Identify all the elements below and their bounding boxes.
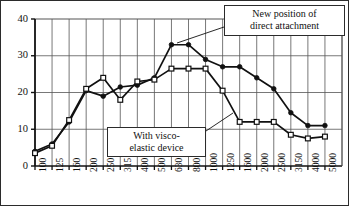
x-axis-tick-label: 160 [73,158,83,172]
callout-visco-line1: With visco- [112,130,201,142]
callout-visco-line2: elastic device [112,142,201,154]
x-axis-tick-label: 250 [107,158,117,172]
x-axis-tick-label: 1250 [227,153,237,172]
x-axis-tick-label: 125 [56,158,66,172]
callout-direct-line1: New position of [229,8,340,20]
x-axis-tick-label: 400 [141,158,151,172]
y-axis-tick-label: 20 [6,87,28,98]
x-axis-tick-label: 2500 [278,153,288,172]
x-axis-tick-label: 500 [158,158,168,172]
x-axis-tick-label: 630 [175,158,185,172]
y-axis-tick-label: 10 [6,124,28,135]
x-axis-tick-label: 1000 [210,153,220,172]
callout-with-viscoelastic-device: With visco- elastic device [107,127,206,157]
callout-direct-line2: direct attachment [229,20,340,32]
x-axis-tick-label: 1600 [244,153,254,172]
chart-figure: New position of direct attachment With v… [0,0,349,206]
x-axis-tick-label: 200 [90,158,100,172]
x-axis-tick-label: 315 [124,158,134,172]
x-axis-tick-label: 3150 [295,153,305,172]
x-axis-tick-label: 4000 [312,153,322,172]
x-axis-tick-label: 100 [39,158,49,172]
y-axis-tick-label: 0 [6,161,28,172]
x-axis-tick-label: 5000 [329,153,339,172]
x-axis-tick-label: 2000 [261,153,271,172]
callout-new-position-direct-attachment: New position of direct attachment [224,5,345,36]
x-axis-tick-label: 800 [193,158,203,172]
y-axis-tick-label: 40 [6,14,28,25]
y-axis-tick-label: 30 [6,50,28,61]
